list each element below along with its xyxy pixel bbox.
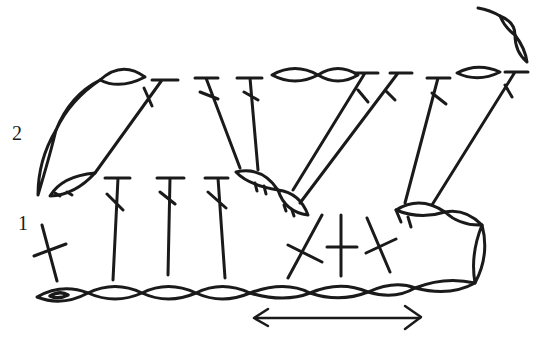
row-1-stitches	[34, 178, 396, 281]
direction-arrow[interactable]	[254, 306, 421, 329]
foundation-chain	[37, 280, 475, 301]
crochet-chart	[0, 0, 544, 349]
row-2-stitches	[38, 8, 528, 216]
turning-chain-right	[396, 203, 485, 283]
